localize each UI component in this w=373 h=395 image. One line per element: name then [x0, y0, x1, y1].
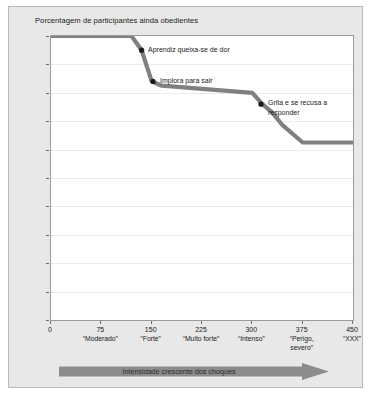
- y-tick-mark: [46, 206, 49, 207]
- plot-area: Aprendiz queixa-se de dor Implora para s…: [50, 35, 354, 321]
- shock-intensity-arrow: Intensidade crescente dos choques: [59, 363, 329, 383]
- x-tick-name: “Moderado”: [74, 334, 126, 343]
- x-tick-value: 225: [181, 325, 221, 334]
- x-tick-0: 0: [24, 325, 76, 334]
- y-tick-mark: [46, 36, 49, 37]
- y-axis: 100 90 80 70 60 50 40 30 20 10 0: [9, 7, 50, 323]
- x-tick-name: “Forte”: [125, 334, 177, 343]
- x-tick-375: 375 “Perigo, severo”: [280, 325, 324, 352]
- y-tick-mark: [46, 178, 49, 179]
- annotation-complains: Aprendiz queixa-se de dor: [148, 45, 230, 55]
- y-tick-mark: [46, 292, 49, 293]
- x-tick-name: “XXX”: [326, 334, 373, 343]
- y-tick-mark: [46, 235, 49, 236]
- y-tick-mark: [46, 263, 49, 264]
- x-tick-value: 150: [125, 325, 177, 334]
- x-tick-300: 300 “Intenso”: [225, 325, 277, 343]
- chart-title: Porcentagem de participantes ainda obedi…: [35, 16, 198, 25]
- x-tick-name: “Intenso”: [225, 334, 277, 343]
- y-tick-mark: [46, 121, 49, 122]
- annotation-screams-line1: Grita e se recusa a: [268, 98, 327, 108]
- x-tick-value: 0: [24, 325, 76, 334]
- annotation-begs: Implora para sair: [160, 76, 213, 86]
- y-tick-mark: [46, 150, 49, 151]
- x-tick-450: 450 “XXX”: [326, 325, 373, 343]
- x-tick-name: “Perigo, severo”: [280, 334, 324, 352]
- x-tick-225: 225 “Muito forte”: [181, 325, 221, 343]
- arrow-label: Intensidade crescente dos choques: [59, 367, 299, 376]
- y-tick-mark: [46, 93, 49, 94]
- annotation-screams-line2: responder: [268, 108, 300, 118]
- y-tick-mark: [46, 320, 49, 321]
- x-tick-75: 75 “Moderado”: [74, 325, 126, 343]
- x-tick-value: 375: [280, 325, 324, 334]
- x-tick-150: 150 “Forte”: [125, 325, 177, 343]
- x-tick-value: 75: [74, 325, 126, 334]
- x-tick-name: “Muito forte”: [181, 334, 221, 343]
- y-tick-mark: [46, 64, 49, 65]
- figure-panel: Porcentagem de participantes ainda obedi…: [8, 6, 363, 388]
- x-tick-value: 450: [326, 325, 373, 334]
- x-axis: 0 75 “Moderado” 150 “Forte” 225 “Muito f…: [50, 321, 354, 369]
- x-tick-value: 300: [225, 325, 277, 334]
